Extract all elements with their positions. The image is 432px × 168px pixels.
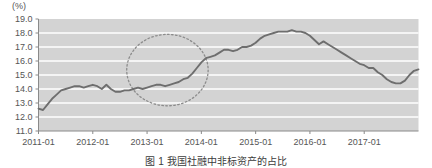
x-axis-tick-label: 2014-01 bbox=[185, 137, 218, 147]
y-axis-tick-label: 17.0 bbox=[15, 42, 33, 52]
x-axis-tick-label: 2017-01 bbox=[348, 137, 381, 147]
y-axis-tick-label: 14.0 bbox=[15, 84, 33, 94]
x-axis-tick-label: 2011-01 bbox=[22, 137, 54, 147]
y-axis-tick-label: 16.0 bbox=[15, 56, 33, 66]
x-axis-tick-label: 2012-01 bbox=[76, 137, 109, 147]
x-axis-tick-label: 2013-01 bbox=[131, 137, 164, 147]
line-chart: 19.018.017.016.015.014.013.012.011.02011… bbox=[0, 0, 432, 168]
y-axis-tick-label: 18.0 bbox=[15, 28, 33, 38]
x-axis-tick-label: 2016-01 bbox=[293, 137, 326, 147]
x-axis-tick-label: 2015-01 bbox=[239, 137, 272, 147]
figure-container: (%) 19.018.017.016.015.014.013.012.011.0… bbox=[0, 0, 432, 168]
y-axis-tick-label: 12.0 bbox=[15, 112, 33, 122]
y-axis-tick-label: 11.0 bbox=[16, 126, 33, 136]
figure-caption: 图 1 我国社融中非标资产的占比 bbox=[0, 153, 432, 168]
y-axis-tick-label: 13.0 bbox=[15, 98, 33, 108]
y-axis-tick-label: 15.0 bbox=[15, 70, 33, 80]
y-axis-tick-label: 19.0 bbox=[15, 14, 33, 24]
